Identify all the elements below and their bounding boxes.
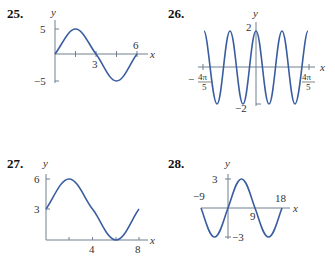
x-tick-label: 6 [133,39,139,51]
problem-number-27: 27. [7,156,23,171]
x-tick-label: 4π [302,72,312,82]
y-axis-label: y [224,157,230,169]
curve-27 [46,179,139,240]
problem-number-26: 26. [168,6,184,21]
x-tick-label: −9 [193,190,205,202]
x-axis-label: x [149,234,155,246]
problem-number-28: 28. [168,156,184,171]
x-tick-sign: − [188,73,194,85]
x-tick-label: 4π [198,72,208,82]
curve-25 [55,29,137,81]
figure-canvas: 25. y 5 −5 3 6 x 26. y 2 −2 x − 4π 5 4π … [0,0,335,268]
x-tick-label: 8 [135,243,141,255]
problem-number-25: 25. [7,6,23,21]
y-tick-label: −3 [232,231,244,243]
x-tick-label: 5 [306,82,311,92]
graph-28: 28. y 3 −3 −9 9 18 x [168,156,298,243]
y-tick-label: 3 [212,173,218,185]
x-tick-label: 4 [89,243,95,255]
graph-25: 25. y 5 −5 3 6 x [7,6,155,87]
y-tick-label: 6 [34,173,40,185]
y-axis-label: y [50,6,56,18]
x-tick-label: 18 [275,192,287,204]
x-tick-label: 9 [250,210,256,222]
y-tick-label: 3 [34,203,40,215]
x-axis-label: x [292,202,298,214]
x-axis-label: x [149,48,155,60]
graph-27: 27. y 6 3 4 8 x [7,156,155,255]
x-tick-label: 3 [92,58,98,70]
y-axis-label: y [42,157,48,169]
x-tick-label: 5 [202,82,207,92]
y-axis-label: y [252,7,258,19]
y-tick-label: −2 [235,102,247,114]
x-axis-label: x [319,61,325,73]
y-tick-label: 2 [246,21,252,33]
y-tick-label: −5 [34,75,46,87]
y-tick-label: 5 [40,23,46,35]
graph-26: 26. y 2 −2 x − 4π 5 4π 5 [168,6,325,114]
